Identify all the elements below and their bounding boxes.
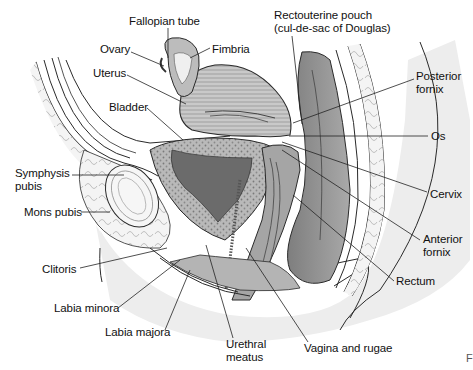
label-mons-pubis: Mons pubis [24, 206, 82, 219]
label-cervix: Cervix [430, 188, 462, 201]
label-vagina-and-rugae: Vagina and rugae [304, 342, 392, 355]
label-labia-minora: Labia minora [54, 302, 119, 315]
label-uterus: Uterus [93, 67, 126, 80]
label-fallopian-tube: Fallopian tube [129, 15, 200, 28]
label-bladder: Bladder [109, 101, 148, 114]
label-urethral-meatus: Urethral meatus [226, 338, 266, 364]
label-anterior-fornix: Anterior fornix [423, 233, 462, 259]
label-posterior-fornix: Posterior fornix [416, 70, 461, 96]
label-fimbria: Fimbria [212, 43, 250, 56]
label-labia-majora: Labia majora [105, 326, 170, 339]
label-symphysis-pubis: Symphysis pubis [15, 167, 70, 193]
label-rectouterine-pouch: Rectouterine pouch (cul-de-sac of Dougla… [274, 9, 391, 35]
figure-corner-mark: F [466, 352, 473, 364]
label-rectum: Rectum [396, 275, 435, 288]
label-clitoris: Clitoris [42, 263, 76, 276]
label-os: Os [431, 130, 446, 143]
label-ovary: Ovary [100, 43, 130, 56]
